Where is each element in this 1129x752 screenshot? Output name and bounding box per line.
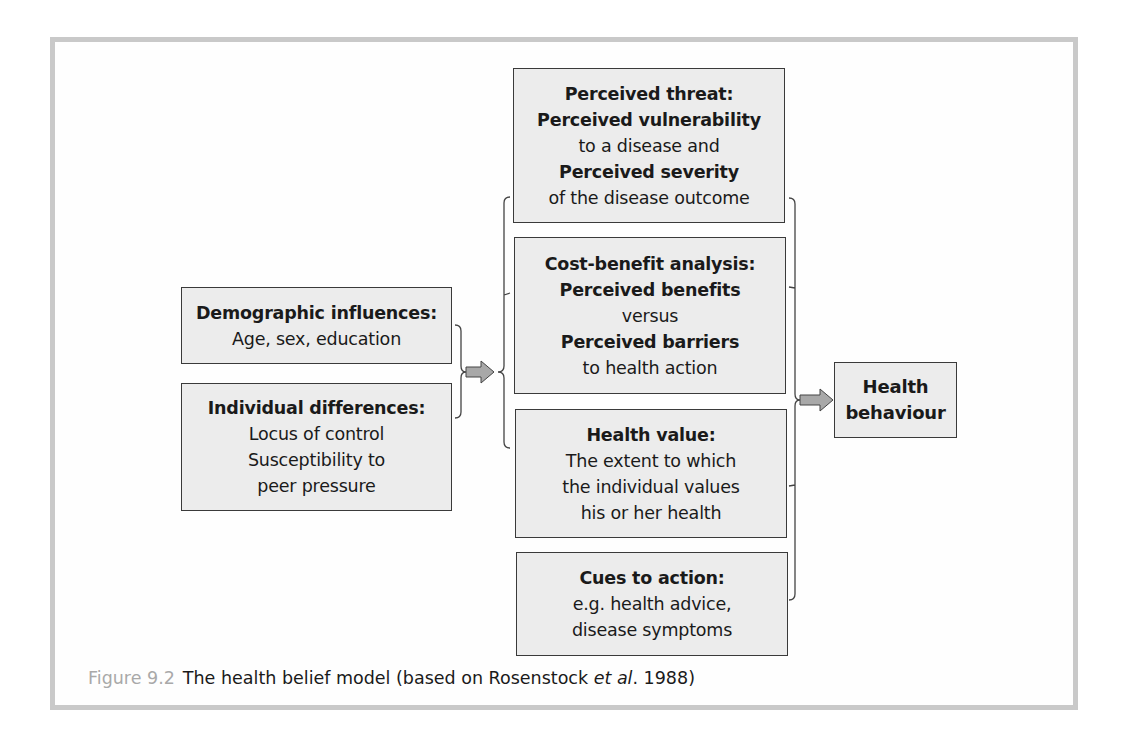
figure-caption: Figure 9.2The health belief model (based… — [88, 668, 695, 688]
caption-italic: et al — [594, 668, 633, 688]
box-title: Health value: — [586, 422, 715, 448]
box-title: Demographic influences: — [196, 300, 437, 326]
box-line: Perceived barriers — [561, 329, 739, 355]
figure-label: Figure 9.2 — [88, 668, 175, 688]
box-title: Individual differences: — [208, 395, 425, 421]
box-line: Perceived benefits — [560, 277, 741, 303]
box-line: Perceived vulnerability — [537, 107, 761, 133]
box-line: Health — [863, 374, 929, 400]
perceived-threat-box: Perceived threat: Perceived vulnerabilit… — [513, 68, 785, 223]
box-line: versus — [622, 303, 678, 329]
health-value-box: Health value: The extent to which the in… — [515, 409, 787, 538]
box-line: behaviour — [845, 400, 945, 426]
individual-differences-box: Individual differences: Locus of control… — [181, 383, 452, 511]
box-line: Locus of control — [249, 421, 384, 447]
cues-to-action-box: Cues to action: e.g. health advice, dise… — [516, 552, 788, 656]
cost-benefit-analysis-box: Cost-benefit analysis: Perceived benefit… — [514, 237, 786, 394]
box-line: disease symptoms — [572, 617, 732, 643]
box-line: Perceived severity — [559, 159, 739, 185]
caption-text: The health belief model (based on Rosens… — [183, 668, 594, 688]
box-line: to health action — [583, 355, 718, 381]
box-line: to a disease and — [578, 133, 719, 159]
box-title: Cues to action: — [579, 565, 724, 591]
box-line: Susceptibility to — [248, 447, 385, 473]
box-line: his or her health — [581, 500, 722, 526]
box-line: peer pressure — [257, 473, 375, 499]
box-line: The extent to which — [566, 448, 736, 474]
box-line: Age, sex, education — [232, 326, 401, 352]
caption-text-end: . 1988) — [632, 668, 695, 688]
health-behaviour-box: Health behaviour — [834, 362, 957, 438]
box-line: the individual values — [562, 474, 740, 500]
box-line: of the disease outcome — [548, 185, 749, 211]
box-title: Perceived threat: — [565, 81, 734, 107]
demographic-influences-box: Demographic influences: Age, sex, educat… — [181, 287, 452, 364]
box-title: Cost-benefit analysis: — [545, 251, 756, 277]
box-line: e.g. health advice, — [573, 591, 732, 617]
